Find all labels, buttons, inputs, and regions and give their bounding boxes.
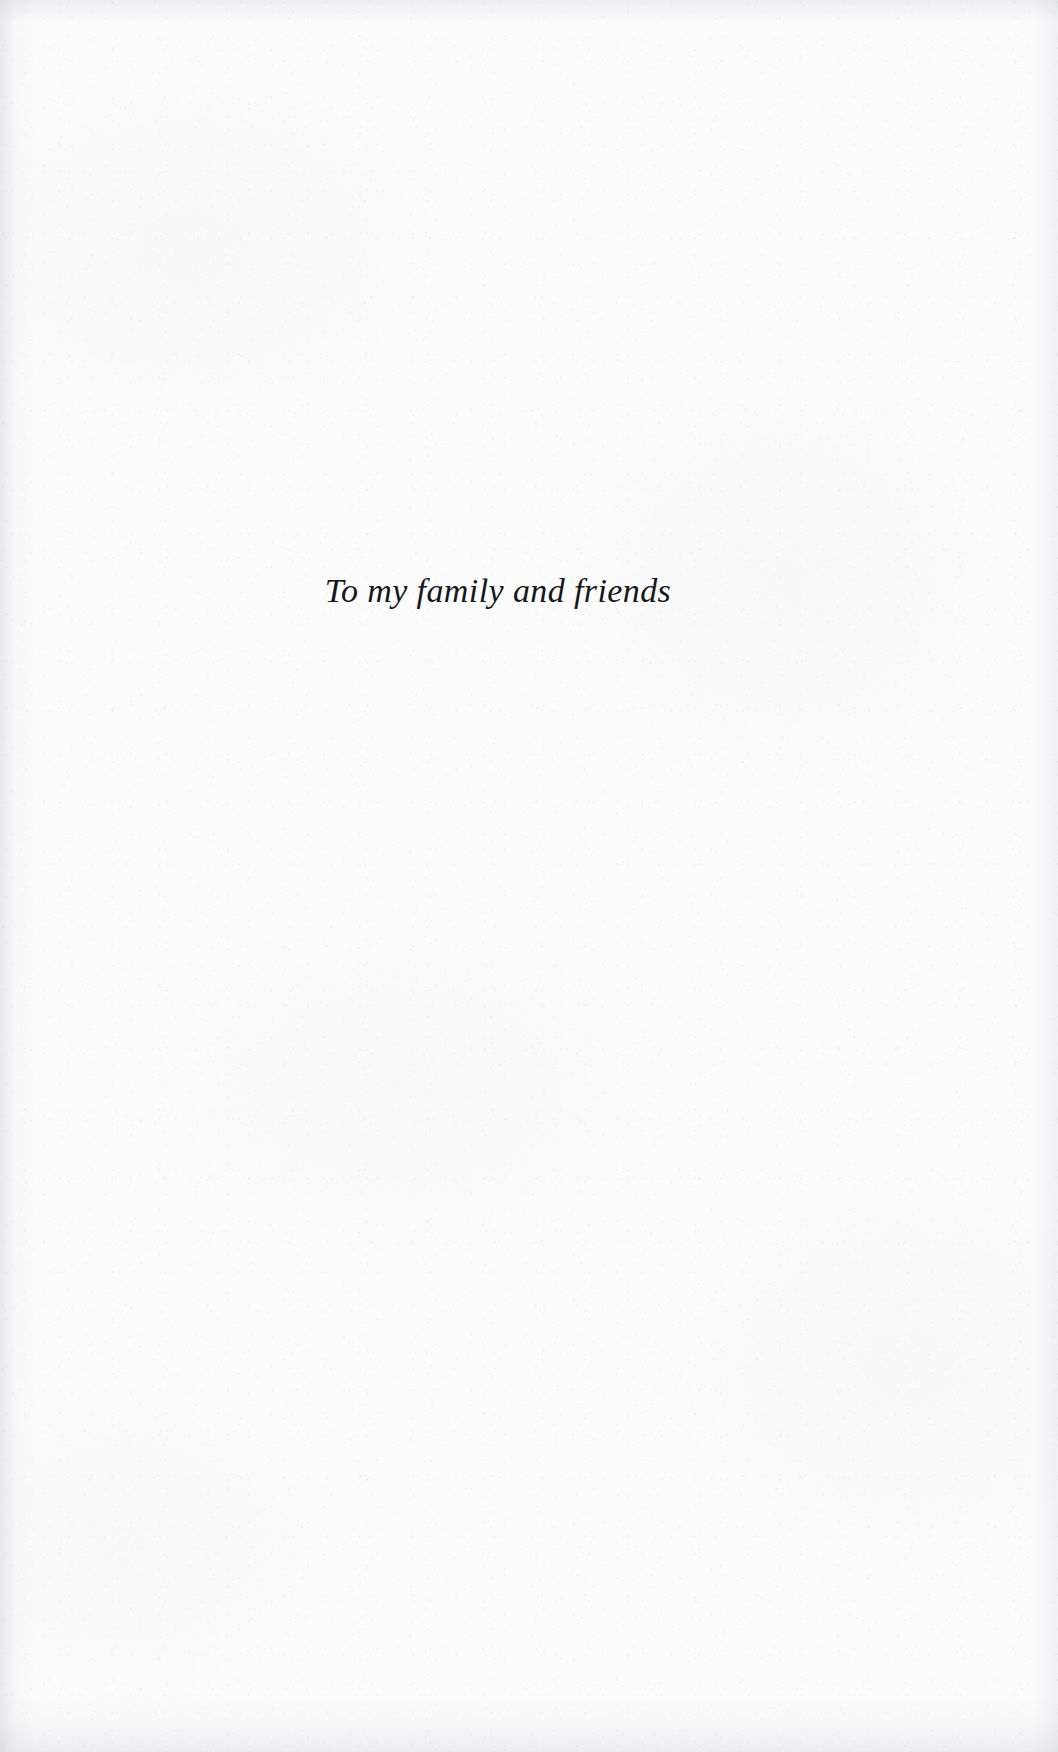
paper-grain-fine-texture	[0, 0, 1058, 1752]
dedication-block: To my family and friends	[0, 570, 1058, 613]
page-edge-shading-top	[0, 0, 1058, 22]
page-edge-shading-left	[0, 0, 34, 1752]
book-page: To my family and friends	[0, 0, 1058, 1752]
paper-grain-texture	[0, 0, 1058, 1752]
dedication-text: To my family and friends	[325, 570, 671, 613]
page-edge-shading-bottom	[0, 1692, 1058, 1752]
paper-mottle-texture	[0, 0, 1058, 1752]
page-edge-shading-right	[1032, 0, 1058, 1752]
